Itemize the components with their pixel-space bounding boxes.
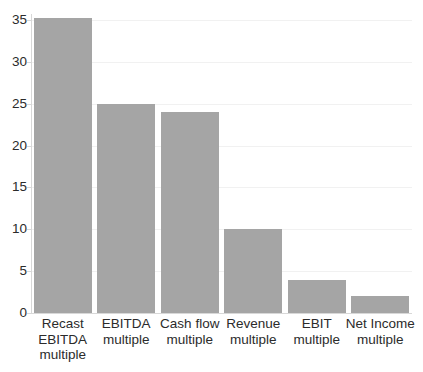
bar	[224, 229, 282, 313]
x-axis-tick-label-line: EBIT	[281, 316, 353, 332]
bar	[161, 112, 219, 313]
bar	[351, 296, 409, 313]
x-axis-tick-label: EBITDAmultiple	[91, 316, 163, 347]
x-axis-line	[31, 313, 412, 314]
x-axis-tick-label-line: multiple	[27, 347, 99, 363]
x-axis-tick-label-line: multiple	[281, 332, 353, 348]
x-axis-tick-label-line: EBITDA	[91, 316, 163, 332]
bar	[97, 104, 155, 313]
y-axis-tick-labels: 05101520253035	[0, 0, 27, 372]
y-axis-tick-label: 15	[3, 181, 27, 195]
y-axis-tick-label: 20	[3, 139, 27, 153]
y-axis-tick-label: 10	[3, 223, 27, 237]
x-axis-tick-label-line: Recast	[27, 316, 99, 332]
y-axis-tick-label: 30	[3, 55, 27, 69]
y-axis-tick-label: 0	[3, 306, 27, 320]
x-axis-tick-label: EBITmultiple	[281, 316, 353, 347]
x-axis-tick-label-line: multiple	[91, 332, 163, 348]
x-axis-tick-label: Cash flowmultiple	[154, 316, 226, 347]
x-axis-tick-label-line: Revenue	[218, 316, 290, 332]
y-axis-tick-label: 5	[3, 264, 27, 278]
x-axis-tick-label-line: Net Income	[345, 316, 417, 332]
x-axis-tick-label-line: Cash flow	[154, 316, 226, 332]
y-axis-tick-label: 35	[3, 13, 27, 27]
bar	[288, 280, 346, 313]
x-axis-tick-label-line: multiple	[218, 332, 290, 348]
x-axis-tick-label: Revenuemultiple	[218, 316, 290, 347]
x-axis-tick-label: Net Incomemultiple	[345, 316, 417, 347]
y-axis-tick-mark	[27, 313, 31, 314]
x-axis-tick-label-line: EBITDA	[27, 332, 99, 348]
bar	[34, 18, 92, 313]
bars-layer	[31, 0, 412, 313]
x-axis-tick-label-line: multiple	[154, 332, 226, 348]
x-axis-tick-label: RecastEBITDAmultiple	[27, 316, 99, 363]
y-axis-tick-label: 25	[3, 97, 27, 111]
x-axis-tick-labels: RecastEBITDAmultipleEBITDAmultipleCash f…	[31, 316, 412, 372]
x-axis-tick-label-line: multiple	[345, 332, 417, 348]
bar-chart: 05101520253035 RecastEBITDAmultipleEBITD…	[0, 0, 423, 372]
